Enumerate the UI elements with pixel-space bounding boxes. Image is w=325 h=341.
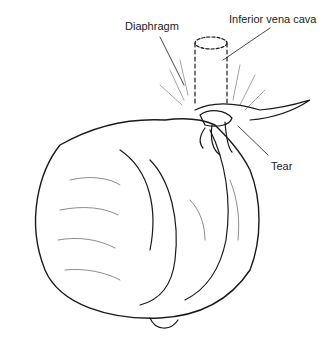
tear-label: Tear <box>271 160 292 172</box>
diaphragm-label: Diaphragm <box>125 20 179 32</box>
illustration: Diaphragm Inferior vena cava Tear <box>0 0 325 341</box>
ivc-label: Inferior vena cava <box>229 13 316 25</box>
